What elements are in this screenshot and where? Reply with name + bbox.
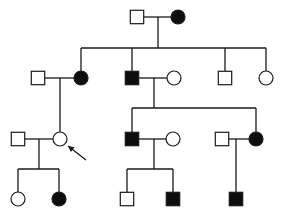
individual-III-5-square-icon	[215, 132, 228, 145]
individual-II-6-circle-icon	[259, 71, 273, 85]
individual-II-3-square-icon	[125, 71, 138, 84]
pedigree-chart	[0, 0, 283, 220]
individual-IV-3-square-icon	[120, 192, 133, 205]
individual-I-1-square-icon	[130, 10, 143, 23]
individual-II-4-circle-icon	[167, 71, 181, 85]
proband-arrow-icon	[68, 146, 86, 160]
individual-II-2-circle-icon	[74, 71, 88, 85]
individual-III-2-circle-icon	[53, 132, 67, 146]
individual-III-6-circle-icon	[249, 132, 263, 146]
individual-IV-5-square-icon	[229, 192, 242, 205]
individual-II-5-square-icon	[218, 71, 231, 84]
individual-IV-2-circle-icon	[52, 192, 66, 206]
individual-III-3-square-icon	[125, 132, 138, 145]
pedigree-lines	[18, 17, 266, 192]
individual-II-1-square-icon	[31, 71, 44, 84]
individual-IV-1-circle-icon	[11, 192, 25, 206]
individual-IV-4-square-icon	[166, 192, 179, 205]
individual-I-2-circle-icon	[171, 10, 185, 24]
individual-III-4-circle-icon	[166, 132, 180, 146]
individual-III-1-square-icon	[11, 132, 24, 145]
